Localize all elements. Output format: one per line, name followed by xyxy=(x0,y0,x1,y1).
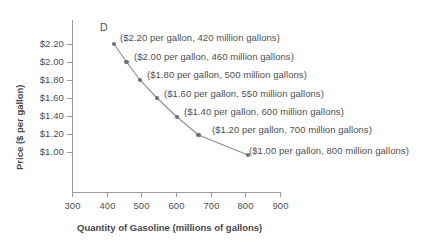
y-tick-label-1-80: $1.80 xyxy=(22,74,64,85)
data-point-550 xyxy=(155,96,160,101)
annotation-700: ($1.20 per gallon, 700 million gallons) xyxy=(212,124,372,135)
annotation-460: ($2.00 per gallon, 460 million gallons) xyxy=(134,51,294,62)
y-tick-1-80 xyxy=(67,80,72,81)
y-axis-title: Price ($ per gallon) xyxy=(14,84,25,170)
y-tick-1-00 xyxy=(67,152,72,153)
x-tick-500 xyxy=(141,192,142,197)
annotation-500: ($1.80 per gallon, 500 million gallons) xyxy=(147,69,307,80)
data-point-700 xyxy=(196,133,201,138)
data-point-600 xyxy=(175,115,180,120)
x-tick-label-900: 900 xyxy=(260,200,301,211)
y-tick-label-1-20: $1.20 xyxy=(22,128,64,139)
y-tick-label-1-00: $1.00 xyxy=(22,146,64,157)
demand-curve-label: D xyxy=(100,21,108,33)
y-tick-label-1-40: $1.40 xyxy=(22,110,64,121)
annotation-600: ($1.40 per gallon, 600 million gallons) xyxy=(184,106,344,117)
y-tick-label-2-20: $2.20 xyxy=(22,38,64,49)
y-axis-line xyxy=(72,20,73,193)
y-tick-2-20 xyxy=(67,44,72,45)
x-axis-title: Quantity of Gasoline (millions of gallon… xyxy=(77,222,262,233)
y-tick-label-1-60: $1.60 xyxy=(22,92,64,103)
y-tick-1-60 xyxy=(67,98,72,99)
demand-curve-chart: $2.20 $2.00 $1.80 $1.60 $1.40 $1.20 $1.0… xyxy=(0,0,434,251)
y-tick-label-2-00: $2.00 xyxy=(22,56,64,67)
annotation-550: ($1.60 per gallon, 550 million gallons) xyxy=(164,88,324,99)
data-point-460 xyxy=(124,60,129,65)
y-tick-1-40 xyxy=(67,116,72,117)
x-tick-400 xyxy=(107,192,108,197)
x-tick-800 xyxy=(245,192,246,197)
annotation-800: ($1.00 per gallon, 800 million gallons) xyxy=(249,145,409,156)
y-tick-1-20 xyxy=(67,134,72,135)
x-tick-300 xyxy=(72,192,73,197)
data-point-500 xyxy=(138,78,143,83)
x-tick-900 xyxy=(280,192,281,197)
x-tick-700 xyxy=(211,192,212,197)
x-tick-600 xyxy=(176,192,177,197)
annotation-420: ($2.20 per gallon, 420 million gallons) xyxy=(120,32,280,43)
data-point-420 xyxy=(112,42,117,47)
y-tick-2-00 xyxy=(67,62,72,63)
